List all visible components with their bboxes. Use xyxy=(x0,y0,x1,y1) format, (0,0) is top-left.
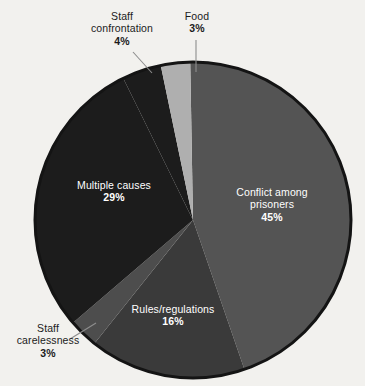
pie-label-percent: 45% xyxy=(216,211,328,223)
pie-label-food: Food 3% xyxy=(168,10,226,35)
pie-label-name: Rules/regulations xyxy=(110,303,236,315)
pie-label-percent: 3% xyxy=(168,22,226,34)
pie-label-percent: 4% xyxy=(74,35,170,47)
pie-label-staff-carelessness: Staff carelessness 3% xyxy=(2,322,94,359)
pie-label-conflict-among-prisoners: Conflict among prisoners 45% xyxy=(216,186,328,223)
pie-label-name: Conflict among xyxy=(216,186,328,198)
pie-label-name-2: carelessness xyxy=(2,334,94,346)
pie-label-name: Staff xyxy=(2,322,94,334)
pie-label-name: Food xyxy=(168,10,226,22)
pie-label-name-2: confrontation xyxy=(74,22,170,34)
pie-label-rules-regulations: Rules/regulations 16% xyxy=(110,303,236,328)
pie-label-name-2: prisoners xyxy=(216,198,328,210)
pie-chart: Staff confrontation 4% Food 3% Conflict … xyxy=(0,0,365,386)
pie-label-percent: 3% xyxy=(2,347,94,359)
pie-label-percent: 16% xyxy=(110,315,236,327)
pie-label-percent: 29% xyxy=(56,191,172,203)
pie-label-multiple-causes: Multiple causes 29% xyxy=(56,179,172,204)
pie-label-staff-confrontation: Staff confrontation 4% xyxy=(74,10,170,47)
pie-label-name: Multiple causes xyxy=(56,179,172,191)
pie-label-name: Staff xyxy=(74,10,170,22)
